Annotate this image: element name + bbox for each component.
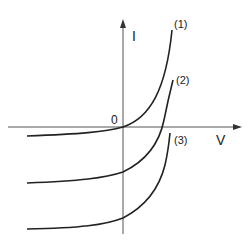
iv-characteristic-diagram: I V 0 (1) (2) (3) [0,0,252,244]
curve-1-label: (1) [174,18,187,30]
curve-2-label: (2) [176,74,189,86]
i-axis-arrow-icon [120,19,126,28]
i-axis-label: I [132,28,136,44]
v-axis-label: V [216,132,226,148]
origin-label: 0 [111,113,118,127]
curve-1 [27,30,172,136]
curve-3-label: (3) [174,134,187,146]
v-axis-arrow-icon [233,124,242,130]
curve-3 [27,133,170,229]
